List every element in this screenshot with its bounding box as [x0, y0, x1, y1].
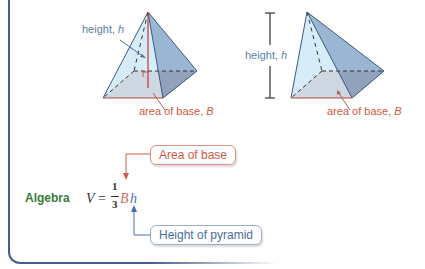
height-label-text: height,	[82, 23, 118, 35]
height-var: h	[118, 23, 124, 35]
left-base-label: area of base, B	[139, 105, 214, 117]
right-base-label: area of base, B	[327, 105, 402, 117]
base-label-text: area of base,	[139, 105, 206, 117]
base-var: B	[206, 105, 213, 117]
fraction-bar	[111, 196, 119, 197]
fraction-numerator: 1	[112, 180, 118, 192]
left-height-label: height, h	[82, 23, 124, 35]
algebra-label: Algebra	[25, 191, 70, 205]
base-var: B	[394, 105, 401, 117]
height-of-pyramid-callout: Height of pyramid	[150, 225, 262, 245]
fraction-denominator: 3	[112, 198, 118, 210]
formula-equals: =	[98, 191, 106, 207]
area-of-base-callout: Area of base	[150, 145, 236, 165]
formula-lhs: V	[86, 191, 95, 207]
height-var: h	[281, 49, 287, 61]
height-label-text: height,	[245, 49, 281, 61]
right-pyramid	[291, 12, 384, 110]
formula-height-var: h	[130, 191, 137, 207]
right-height-label: height, h	[245, 49, 287, 61]
formula-base-var: B	[120, 191, 129, 207]
base-label-text: area of base,	[327, 105, 394, 117]
